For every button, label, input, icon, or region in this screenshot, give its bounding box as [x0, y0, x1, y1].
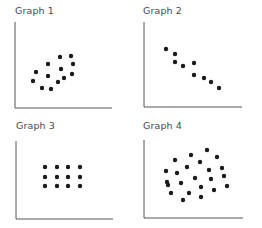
data-point — [40, 86, 44, 90]
data-point — [55, 175, 59, 179]
data-point — [212, 188, 216, 192]
data-point — [78, 184, 82, 188]
data-point — [181, 64, 185, 68]
data-point — [209, 177, 213, 181]
data-point — [62, 76, 66, 80]
data-point — [59, 67, 63, 71]
data-point — [215, 155, 219, 159]
data-point — [66, 175, 70, 179]
data-point — [225, 184, 229, 188]
data-point — [164, 169, 168, 173]
data-point — [220, 166, 224, 170]
data-point — [175, 171, 179, 175]
graph-1 — [15, 22, 112, 108]
data-point — [205, 148, 209, 152]
data-point — [173, 158, 177, 162]
data-point — [46, 74, 50, 78]
graph-3 — [16, 141, 113, 219]
data-point — [185, 165, 189, 169]
data-point — [192, 73, 196, 77]
data-point — [43, 184, 47, 188]
data-point — [71, 62, 75, 66]
data-point — [209, 80, 213, 84]
data-point — [31, 79, 35, 83]
data-point — [34, 70, 38, 74]
data-point — [207, 168, 211, 172]
data-point — [193, 176, 197, 180]
data-point — [173, 60, 177, 64]
data-point — [222, 174, 226, 178]
data-point — [56, 80, 60, 84]
graph-2 — [144, 22, 242, 107]
data-point — [179, 181, 183, 185]
data-point — [69, 54, 73, 58]
data-point — [199, 185, 203, 189]
data-point — [46, 62, 50, 66]
data-point — [70, 72, 74, 76]
data-point — [189, 153, 193, 157]
data-point — [164, 47, 168, 51]
data-point — [173, 52, 177, 56]
data-point — [187, 191, 191, 195]
data-point — [66, 184, 70, 188]
data-point — [169, 191, 173, 195]
data-point — [78, 175, 82, 179]
data-point — [78, 165, 82, 169]
data-point — [199, 195, 203, 199]
data-point — [49, 87, 53, 91]
data-point — [192, 61, 196, 65]
data-point — [43, 175, 47, 179]
data-point — [55, 184, 59, 188]
data-point — [217, 86, 221, 90]
data-point — [198, 160, 202, 164]
data-point — [66, 165, 70, 169]
data-point — [58, 55, 62, 59]
graph-4 — [144, 140, 243, 218]
data-point — [43, 165, 47, 169]
data-point — [166, 183, 170, 187]
data-point — [55, 165, 59, 169]
scatter-plots-canvas — [0, 0, 262, 228]
data-point — [202, 76, 206, 80]
data-point — [181, 198, 185, 202]
